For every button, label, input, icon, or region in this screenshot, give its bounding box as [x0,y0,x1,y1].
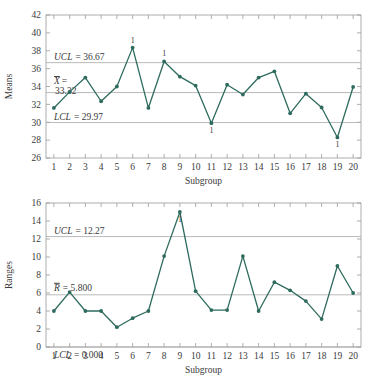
x-tick-label: 16 [285,351,295,361]
x-tick-label: 16 [285,162,295,172]
data-point-marker[interactable] [304,299,308,303]
y-axis-title: Ranges [4,261,14,289]
data-point-marker[interactable] [209,308,213,312]
x-tick-label: 19 [333,162,343,172]
x-tick-label: 7 [146,162,151,172]
data-point-marker[interactable] [304,92,308,96]
data-point-marker[interactable] [272,69,276,73]
y-tick-label: 34 [32,82,42,92]
data-point-marker[interactable] [52,106,56,110]
data-point-marker[interactable] [225,308,229,312]
data-point-marker[interactable] [131,46,135,50]
x-tick-label: 17 [301,162,311,172]
y-axis-title: Means [4,74,14,100]
y-tick-label: 14 [32,216,42,226]
x-tick-label: 9 [178,351,183,361]
x-tick-label: 3 [83,162,88,172]
plot-frame [46,15,361,158]
y-tick-label: 16 [32,198,42,208]
y-tick-label: 2 [36,324,41,334]
data-point-marker[interactable] [146,309,150,313]
data-point-marker[interactable] [115,325,119,329]
data-point-marker[interactable] [241,254,245,258]
x-tick-label: 14 [254,162,264,172]
data-point-marker[interactable] [351,291,355,295]
control-chart-page: 2628303234363840421234567891011121314151… [0,0,385,392]
y-tick-label: 6 [36,288,41,298]
y-tick-label: 40 [32,28,42,38]
data-point-marker[interactable] [209,121,213,125]
data-point-marker[interactable] [68,90,72,94]
x-tick-label: 13 [238,351,248,361]
x-tick-label: 9 [178,162,183,172]
x-tick-label: 11 [207,351,216,361]
data-point-marker[interactable] [288,288,292,292]
data-point-marker[interactable] [162,254,166,258]
data-point-marker[interactable] [178,210,182,214]
data-point-marker[interactable] [272,280,276,284]
data-point-marker[interactable] [194,84,198,88]
data-point-marker[interactable] [335,264,339,268]
x-tick-label: 6 [130,162,135,172]
center-line-annotation: X= [53,76,67,86]
data-point-marker[interactable] [225,83,229,87]
violation-label: 1 [131,36,135,45]
x-tick-label: 11 [207,162,216,172]
center-line-annotation: R= 5.800 [53,283,92,293]
data-point-marker[interactable] [288,111,292,115]
ucl-annotation: UCL= 12.27 [54,226,105,236]
data-point-marker[interactable] [83,76,87,80]
y-tick-label: 36 [32,64,42,74]
y-tick-label: 32 [32,100,42,110]
data-point-marker[interactable] [68,290,72,294]
x-tick-label: 7 [146,351,151,361]
data-point-marker[interactable] [146,106,150,110]
y-tick-label: 12 [32,234,42,244]
x-tick-label: 2 [67,162,72,172]
data-point-marker[interactable] [52,309,56,313]
x-tick-label: 19 [333,351,343,361]
y-tick-label: 10 [32,252,42,262]
x-tick-label: 17 [301,351,311,361]
x-tick-label: 8 [162,162,167,172]
x-axis-title: Subgroup [185,365,222,375]
data-point-marker[interactable] [99,309,103,313]
violation-label: 1 [335,140,339,149]
x-tick-label: 15 [270,351,280,361]
x-axis-title: Subgroup [185,176,222,186]
data-point-marker[interactable] [241,93,245,97]
x-tick-label: 1 [52,162,57,172]
range-control-chart: 0246810121416123456789101112131415161718… [0,190,385,392]
x-tick-label: 14 [254,351,264,361]
data-point-marker[interactable] [131,316,135,320]
y-tick-label: 42 [32,10,42,20]
data-point-marker[interactable] [351,85,355,89]
violation-label: 1 [162,49,166,58]
ucl-annotation: UCL= 36.67 [54,52,105,62]
data-point-marker[interactable] [320,106,324,110]
data-point-marker[interactable] [335,136,339,140]
data-point-marker[interactable] [194,289,198,293]
data-point-marker[interactable] [257,76,261,80]
x-tick-label: 20 [348,162,358,172]
data-point-marker[interactable] [115,85,119,89]
x-tick-label: 4 [99,162,104,172]
x-tick-label: 20 [348,351,358,361]
x-tick-label: 18 [317,351,327,361]
data-point-marker[interactable] [178,75,182,79]
y-tick-label: 38 [32,46,42,56]
x-tick-label: 8 [162,351,167,361]
data-point-marker[interactable] [320,317,324,321]
x-tick-label: 6 [130,351,135,361]
data-point-marker[interactable] [257,309,261,313]
violation-label: 1 [209,126,213,135]
data-point-marker[interactable] [99,99,103,103]
x-tick-label: 15 [270,162,280,172]
y-tick-label: 0 [36,342,41,352]
y-tick-label: 8 [36,270,41,280]
x-tick-label: 12 [222,351,232,361]
x-tick-label: 5 [115,351,120,361]
data-point-marker[interactable] [162,60,166,64]
data-point-marker[interactable] [83,309,87,313]
lcl-annotation: LCL= 0.000 [53,350,103,360]
